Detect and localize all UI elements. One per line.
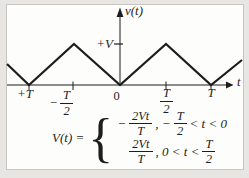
- fraction-numerator: T: [60, 89, 73, 104]
- fraction-numerator: T: [160, 87, 173, 102]
- triangular-waveform-line: [7, 44, 242, 85]
- fraction-denominator: 2: [206, 152, 212, 166]
- tick-label-pos-T: T: [205, 86, 217, 99]
- fraction-denominator: T: [137, 124, 144, 138]
- fraction-numerator: 2Vt: [129, 138, 152, 153]
- y-axis-label: v(t): [125, 4, 143, 17]
- fraction-denominator: T: [137, 152, 144, 166]
- equation-case-negative-slope: − 2Vt T , − T 2 < t < 0: [117, 111, 227, 136]
- tick-label-origin: 0: [112, 90, 121, 103]
- condition-tail: < t < 0: [190, 117, 227, 130]
- figure-canvas: v(t) +V t +T − T 2 0 T 2 T V(t) = { − 2V…: [0, 0, 249, 178]
- v-axis-arrowhead-icon: [117, 8, 124, 18]
- fraction-numerator: T: [202, 138, 215, 153]
- condition-separator: , 0 < t <: [156, 145, 200, 158]
- fraction-T-over-2: T 2: [174, 110, 187, 138]
- fraction-2Vt-over-T: 2Vt T: [129, 138, 152, 166]
- equation-cases: − 2Vt T , − T 2 < t < 0 2Vt T , 0 < t <: [117, 111, 227, 164]
- left-curly-brace: {: [88, 112, 113, 163]
- minus-sign: −: [50, 97, 57, 110]
- piecewise-equation: V(t) = { − 2Vt T , − T 2 < t < 0 2Vt T: [52, 111, 227, 164]
- minus-sign: −: [117, 117, 126, 130]
- peak-value-label: +V: [88, 37, 113, 50]
- equation-lhs: V(t) =: [52, 131, 84, 144]
- x-axis-label: t: [237, 76, 240, 89]
- tick-label-neg-T: +T: [14, 87, 36, 100]
- t-axis-arrowhead-icon: [226, 82, 234, 89]
- fraction-numerator: 2Vt: [129, 110, 152, 125]
- fraction-denominator: 2: [177, 124, 183, 138]
- fraction-T-over-2: T 2: [202, 138, 215, 166]
- condition-separator: , −: [155, 117, 170, 130]
- fraction-numerator: T: [174, 110, 187, 125]
- equation-case-positive-slope: 2Vt T , 0 < t < T 2: [117, 139, 227, 164]
- fraction-2Vt-over-T: 2Vt T: [129, 110, 152, 138]
